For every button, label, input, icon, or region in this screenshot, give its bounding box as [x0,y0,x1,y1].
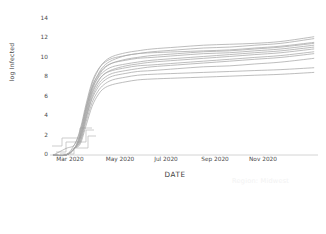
y-tick-label: 14 [26,16,48,22]
y-tick-label: 2 [26,133,48,139]
chart-figure: 14 12 10 8 6 4 2 0 log Infected Mar 2020… [0,0,326,186]
region-slider-player: Play Midwest Northeast South West [0,186,326,234]
series-line [53,45,313,155]
region-annotation: Region: Midwest [232,177,289,185]
y-tick-label: 6 [26,94,48,100]
early-step-artifacts [52,128,96,154]
y-tick-label: 10 [26,55,48,61]
y-axis-title-text: log Infected [8,4,15,120]
series-line [53,52,313,156]
chart-series-lines [53,37,313,156]
x-axis-title: DATE [140,170,210,179]
y-tick-label: 12 [26,35,48,41]
x-tick-label: Nov 2020 [233,157,293,163]
y-tick-label: 4 [26,113,48,119]
series-line [53,43,313,155]
y-tick-label: 8 [26,74,48,80]
chart-application: 14 12 10 8 6 4 2 0 log Infected Mar 2020… [0,0,326,234]
